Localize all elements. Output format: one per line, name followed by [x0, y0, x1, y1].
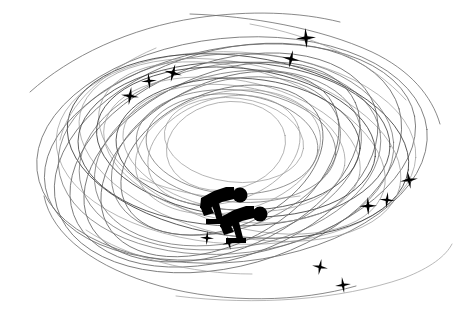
skater-rear-head — [233, 188, 248, 203]
illustration-artboard — [0, 0, 460, 316]
skater-front-head — [253, 207, 268, 222]
skater-front-blade — [226, 238, 246, 243]
speed-skating-illustration — [0, 0, 460, 316]
